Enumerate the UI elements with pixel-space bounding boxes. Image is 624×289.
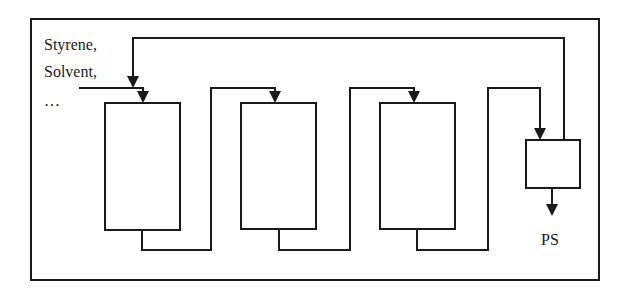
product-label: PS [541, 231, 559, 248]
product-arrow-icon [546, 204, 558, 216]
separator [526, 140, 580, 188]
reactor-2-inlet-arrow-icon [269, 91, 281, 103]
separator-inlet-arrow-icon [534, 128, 546, 140]
feed-arrow-icon [137, 91, 149, 103]
recycle-arrow-icon [127, 76, 139, 88]
feed-label-line-2: Solvent, [44, 63, 97, 80]
feed-label-line-1: Styrene, [44, 36, 97, 54]
reactor-3 [380, 103, 455, 229]
reactor-3-inlet-arrow-icon [408, 91, 420, 103]
feed-label-line-3: … [44, 92, 60, 109]
feed-line [79, 88, 143, 96]
transfer-line-1-2 [142, 88, 275, 250]
process-diagram: Styrene, Solvent, … PS [0, 0, 624, 289]
reactor-2 [241, 103, 316, 229]
reactor-1 [105, 103, 180, 230]
transfer-line-2-3 [279, 88, 414, 250]
transfer-line-3-sep [417, 88, 540, 250]
